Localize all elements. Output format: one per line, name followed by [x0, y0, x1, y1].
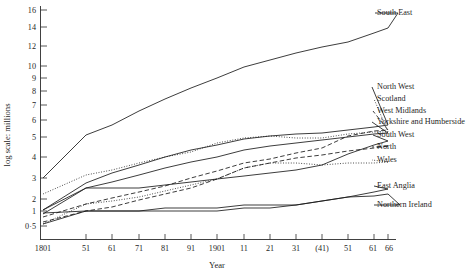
y-tick-label: 14	[28, 23, 36, 32]
y-tick-label: 8	[32, 87, 36, 96]
x-tick-label: 71	[135, 244, 143, 253]
y-tick-label: 0·5	[25, 222, 36, 231]
series-line-east-anglia	[43, 189, 388, 224]
series-label-northern-ireland: Northern Ireland	[377, 200, 432, 209]
y-tick-label: 12	[28, 42, 36, 51]
y-tick-label: 6	[32, 116, 36, 125]
y-axis-title: log scale: millions	[2, 103, 12, 167]
x-tick-label: 61	[369, 244, 377, 253]
x-tick-marks	[86, 234, 388, 240]
x-tick-label: 66	[385, 244, 393, 253]
x-tick-label: 91	[187, 244, 195, 253]
y-tick-label: 9	[32, 74, 36, 83]
x-tick-label: 1901	[209, 244, 225, 253]
y-tick-label: 3	[32, 174, 36, 183]
series-label-yorkshire-humberside: Yorkshire and Humberside	[377, 117, 465, 126]
x-tick-label: 61	[108, 244, 116, 253]
y-tick-label: 1	[32, 207, 36, 216]
series-label-scotland: Scotland	[377, 94, 406, 103]
series-labels: South East North West Scotland West Midl…	[377, 8, 465, 209]
x-axis-title: Year	[209, 260, 225, 270]
y-tick-label: 16	[28, 6, 36, 15]
y-tick-label: 7	[32, 101, 36, 110]
y-tick-label: 4	[32, 153, 36, 162]
x-tick-label: 21	[266, 244, 274, 253]
series-line-northern-ireland	[43, 194, 388, 213]
series-line-west-midlands	[43, 130, 388, 217]
x-tick-labels: 1801 51 61 71 81 91 1901 11 21 31 (41) 5…	[35, 244, 393, 253]
y-tick-label: 10	[28, 62, 36, 71]
series-label-west-midlands: West Midlands	[377, 106, 426, 115]
series-lines	[43, 28, 388, 224]
series-line-south-east	[43, 28, 388, 178]
series-label-north-west: North West	[377, 82, 415, 91]
y-tick-labels: 16 14 12 10 9 8 7 6 5 4 3 2 1 0·5	[25, 6, 36, 231]
series-label-east-anglia: East Anglia	[377, 181, 415, 190]
series-label-wales: Wales	[377, 155, 397, 164]
series-line-north-west	[43, 125, 388, 210]
population-log-chart: 16 14 12 10 9 8 7 6 5 4 3 2 1 0·5	[0, 0, 470, 276]
series-line-south-west	[43, 141, 388, 210]
x-tick-label: 31	[292, 244, 300, 253]
y-tick-label: 2	[32, 195, 36, 204]
series-label-north: North	[377, 142, 396, 151]
x-tick-label: 51	[344, 244, 352, 253]
x-tick-label: (41)	[315, 244, 329, 253]
series-label-south-west: South West	[377, 130, 415, 139]
x-tick-label: 1801	[35, 244, 51, 253]
x-tick-label: 51	[82, 244, 90, 253]
series-label-south-east: South East	[377, 8, 413, 17]
y-tick-label: 5	[32, 133, 36, 142]
chart-canvas: 16 14 12 10 9 8 7 6 5 4 3 2 1 0·5	[0, 0, 470, 276]
x-tick-label: 81	[161, 244, 169, 253]
x-tick-label: 11	[240, 244, 248, 253]
